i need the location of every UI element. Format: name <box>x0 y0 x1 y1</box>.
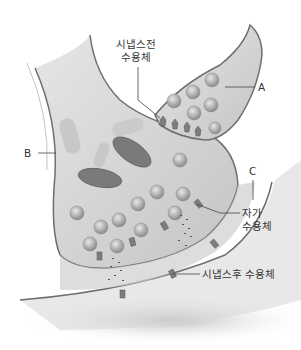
autoreceptor-label: 자가 수용체 <box>242 207 272 233</box>
postsynaptic-receptor-label: 시냅스후 수용체 <box>202 268 275 281</box>
label-b: B <box>24 147 31 160</box>
presynaptic-receptor-label: 시냅스전 수용체 <box>116 38 156 64</box>
label-a: A <box>258 81 265 94</box>
label-c: C <box>249 165 256 178</box>
